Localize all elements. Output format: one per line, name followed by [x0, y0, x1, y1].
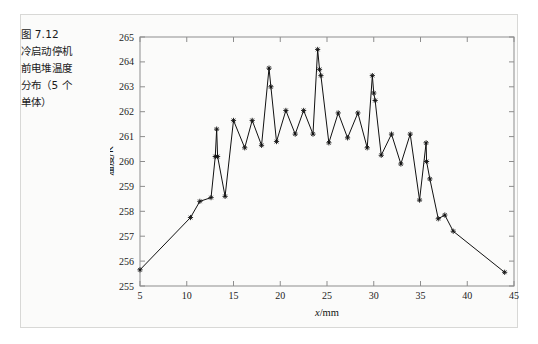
- data-series-layer: [137, 47, 507, 275]
- caption-line-3: 前电堆温度: [21, 60, 105, 77]
- data-point-marker: [310, 132, 315, 137]
- y-tick-label: 265: [119, 32, 134, 43]
- data-point-marker: [188, 215, 193, 220]
- data-point-marker: [274, 139, 279, 144]
- data-point-marker: [268, 84, 273, 89]
- x-tick-label: 30: [369, 290, 379, 301]
- data-point-marker: [408, 132, 413, 137]
- caption-line-4: 分布（5 个: [21, 77, 105, 94]
- data-point-marker: [301, 108, 306, 113]
- data-point-marker: [427, 176, 432, 181]
- data-point-marker: [398, 161, 403, 166]
- data-point-marker: [389, 132, 394, 137]
- x-tick-label: 45: [509, 290, 519, 301]
- data-point-marker: [336, 110, 341, 115]
- y-tick-label: 258: [119, 206, 134, 217]
- data-point-marker: [214, 127, 219, 132]
- data-point-marker: [242, 145, 247, 150]
- x-tick-label: 15: [229, 290, 239, 301]
- y-tick-label: 264: [119, 56, 134, 67]
- figure-caption: 图 7.12 冷启动停机 前电堆温度 分布（5 个 单体）: [21, 26, 105, 111]
- caption-line-5: 单体）: [21, 94, 105, 111]
- x-axis-title: x/mm: [314, 307, 339, 318]
- data-point-marker: [365, 145, 370, 150]
- x-tick-label: 20: [275, 290, 285, 301]
- caption-line-1: 图 7.12: [21, 26, 105, 43]
- data-point-marker: [436, 216, 441, 221]
- data-point-marker: [259, 143, 264, 148]
- data-point-marker: [215, 154, 220, 159]
- x-tick-label: 35: [416, 290, 426, 301]
- y-tick-label: 257: [119, 231, 134, 242]
- data-point-marker: [208, 195, 213, 200]
- data-point-marker: [222, 194, 227, 199]
- data-point-marker: [424, 159, 429, 164]
- data-point-marker: [293, 132, 298, 137]
- data-point-marker: [424, 140, 429, 145]
- data-point-marker: [379, 153, 384, 158]
- data-point-marker: [371, 90, 376, 95]
- data-point-marker: [370, 73, 375, 78]
- x-tick-label: 40: [462, 290, 472, 301]
- data-point-marker: [317, 67, 322, 72]
- x-tick-label: 25: [322, 290, 332, 301]
- y-tick-label: 261: [119, 131, 134, 142]
- data-point-marker: [266, 66, 271, 71]
- axis-titles: x/mm温度/K: [110, 146, 339, 318]
- data-point-marker: [318, 73, 323, 78]
- plot-border: [140, 37, 514, 286]
- figure-page: 图 7.12 冷启动停机 前电堆温度 分布（5 个 单体） 5101520253…: [0, 0, 538, 344]
- line-chart: 51015202530354045 2552562572582592602612…: [110, 14, 522, 330]
- series-line: [140, 49, 505, 272]
- data-point-marker: [326, 140, 331, 145]
- y-axis-title: 温度/K: [110, 146, 115, 176]
- data-point-marker: [250, 118, 255, 123]
- data-point-marker: [283, 108, 288, 113]
- plot-frame: [140, 37, 514, 286]
- x-tick-label: 10: [182, 290, 192, 301]
- data-point-marker: [355, 110, 360, 115]
- y-tick-label: 260: [119, 156, 134, 167]
- x-axis-ticks: 51015202530354045: [138, 37, 520, 301]
- y-tick-label: 262: [119, 106, 134, 117]
- caption-line-2: 冷启动停机: [21, 43, 105, 60]
- data-point-marker: [345, 135, 350, 140]
- y-tick-label: 263: [119, 81, 134, 92]
- x-tick-label: 5: [138, 290, 143, 301]
- data-point-marker: [197, 199, 202, 204]
- data-point-marker: [502, 270, 507, 275]
- data-point-marker: [231, 118, 236, 123]
- chart-plot-area: 51015202530354045 2552562572582592602612…: [110, 14, 522, 330]
- y-tick-label: 259: [119, 181, 134, 192]
- data-point-marker: [417, 197, 422, 202]
- data-point-marker: [373, 98, 378, 103]
- data-point-marker: [442, 212, 447, 217]
- data-point-marker: [315, 47, 320, 52]
- y-tick-label: 256: [119, 256, 134, 267]
- y-tick-label: 255: [119, 281, 134, 292]
